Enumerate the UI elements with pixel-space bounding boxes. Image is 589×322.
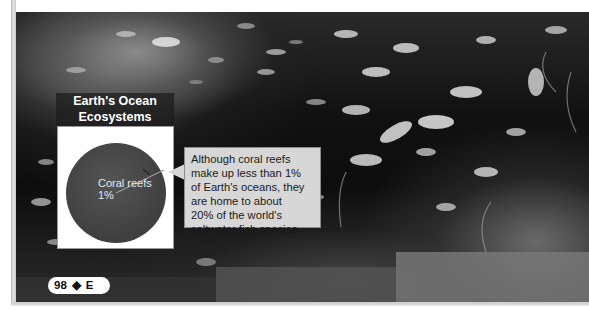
chart-title-line2: Ecosystems xyxy=(56,109,174,125)
callout-line: make up less than 1% xyxy=(191,166,314,180)
section-letter: E xyxy=(86,279,94,291)
diamond-icon: ◆ xyxy=(72,279,81,291)
callout-pointer-arrow xyxy=(168,164,185,180)
chart-title-line1: Earth's Ocean xyxy=(56,93,174,109)
page-folio: 98◆E xyxy=(48,277,110,294)
callout-annotation: Although coral reefs make up less than 1… xyxy=(184,147,321,228)
callout-line: 20% of the world's xyxy=(191,208,314,222)
callout-line: are home to about xyxy=(191,194,314,208)
slice-label-name: Coral reefs xyxy=(98,177,152,189)
pie-chart: Coral reefs 1% xyxy=(64,141,168,245)
slice-label-value: 1% xyxy=(98,189,152,201)
callout-line: Although coral reefs xyxy=(191,152,314,166)
chart-title: Earth's Ocean Ecosystems xyxy=(56,93,174,126)
pie-slice-label: Coral reefs 1% xyxy=(98,177,152,201)
page-border-bottom xyxy=(11,302,589,306)
callout-line: of Earth's oceans, they xyxy=(191,180,314,194)
page-number: 98 xyxy=(54,279,67,291)
callout-line: saltwater fish species. xyxy=(191,222,314,236)
pie-chart-card: Coral reefs 1% xyxy=(57,126,174,249)
